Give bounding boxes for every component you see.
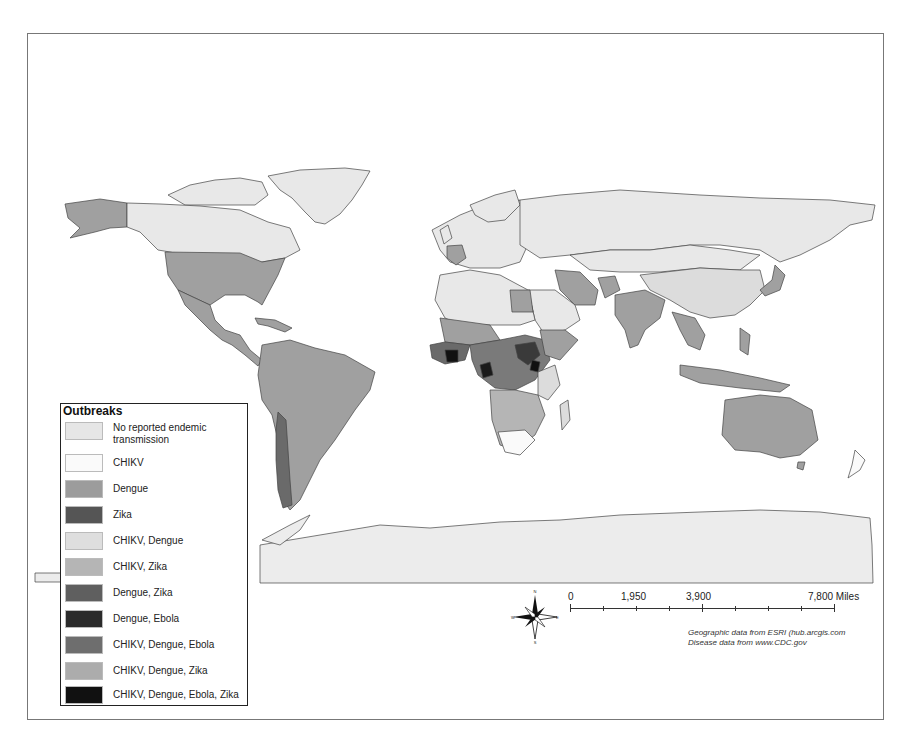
region-south-america [258, 340, 375, 510]
region-japan [760, 265, 785, 296]
compass-rose-icon: N S W E [510, 589, 560, 645]
legend-item-chikv-dengue-ebola-zika: CHIKV, Dengue, Ebola, Zika [65, 686, 247, 706]
legend-item-chikv-dengue: CHIKV, Dengue [65, 532, 247, 552]
region-se-asia [672, 312, 705, 350]
region-horn-africa [540, 330, 578, 360]
legend-item-chikv-dengue-ebola: CHIKV, Dengue, Ebola [65, 636, 247, 656]
region-philippines [740, 328, 750, 355]
region-canada-arctic [168, 178, 268, 205]
attribution-line1: Geographic data from ESRI (hub.arcgis.co… [688, 628, 845, 638]
region-liberia [445, 350, 458, 362]
legend-item-chikv-zika: CHIKV, Zika [65, 558, 247, 578]
scale-tick [570, 604, 571, 612]
scale-tick [834, 604, 835, 612]
scale-tick [702, 604, 703, 612]
legend-label: Dengue [113, 483, 148, 495]
legend-title: Outbreaks [63, 404, 122, 418]
legend-item-dengue: Dengue [65, 480, 247, 500]
legend-label-line1: No reported endemic [113, 422, 206, 434]
legend-item-chikv-dengue-zika: CHIKV, Dengue, Zika [65, 662, 247, 682]
scale-label-7800: 7,800 Miles [808, 591, 859, 602]
legend-label: CHIKV, Dengue, Ebola [113, 639, 214, 651]
scale-label-0: 0 [568, 591, 574, 602]
legend-item-no-reported: No reported endemic transmission [65, 422, 247, 450]
region-madagascar [560, 400, 570, 430]
attribution: Geographic data from ESRI (hub.arcgis.co… [688, 628, 845, 648]
region-indonesia [680, 365, 790, 392]
legend-item-dengue-ebola: Dengue, Ebola [65, 610, 247, 630]
legend-label: CHIKV, Dengue, Zika [113, 665, 208, 677]
scale-bar: 0 1,950 3,900 7,800 Miles [568, 591, 903, 631]
region-australia [722, 395, 818, 458]
legend-swatch [65, 454, 103, 472]
legend-swatch [65, 480, 103, 498]
scale-tick [636, 606, 637, 611]
legend-swatch [65, 422, 103, 440]
region-new-zealand [848, 450, 865, 478]
compass-n: N [534, 589, 537, 594]
legend-swatch [65, 558, 103, 576]
legend-label: CHIKV, Zika [113, 561, 167, 573]
scale-tick [768, 606, 769, 611]
legend-swatch [65, 636, 103, 654]
legend-swatch [65, 506, 103, 524]
region-antarctica [260, 510, 873, 583]
scale-tick [801, 606, 802, 611]
region-caribbean [255, 318, 292, 332]
legend-item-zika: Zika [65, 506, 247, 526]
scale-label-3900: 3,900 [686, 591, 711, 602]
legend-label: CHIKV, Dengue [113, 535, 183, 547]
legend-swatch [65, 686, 103, 704]
legend-label: CHIKV [113, 457, 144, 469]
region-egypt [510, 290, 533, 312]
region-greenland [268, 168, 370, 224]
compass-w: W [511, 615, 515, 620]
legend-label: Zika [113, 509, 132, 521]
region-alaska [65, 199, 127, 238]
compass-s: S [534, 640, 537, 645]
legend-label: CHIKV, Dengue, Ebola, Zika [113, 689, 239, 701]
legend-label: Dengue, Zika [113, 587, 172, 599]
region-india [615, 290, 665, 348]
legend-swatch [65, 610, 103, 628]
legend: Outbreaks No reported endemic transmissi… [60, 403, 248, 706]
scale-tick [669, 606, 670, 611]
legend-swatch [65, 584, 103, 602]
legend-label-line2: transmission [113, 434, 206, 446]
region-mexico [178, 290, 262, 366]
scale-tick [603, 606, 604, 611]
legend-label: Dengue, Ebola [113, 613, 179, 625]
scale-label-1950: 1,950 [621, 591, 646, 602]
legend-item-chikv: CHIKV [65, 454, 247, 474]
legend-item-dengue-zika: Dengue, Zika [65, 584, 247, 604]
compass-e: E [556, 615, 559, 620]
region-tasmania [797, 462, 805, 470]
attribution-line2: Disease data from www.CDC.gov [688, 638, 845, 648]
scale-tick [735, 606, 736, 611]
legend-swatch [65, 662, 103, 680]
legend-swatch [65, 532, 103, 550]
region-uganda [530, 360, 540, 372]
